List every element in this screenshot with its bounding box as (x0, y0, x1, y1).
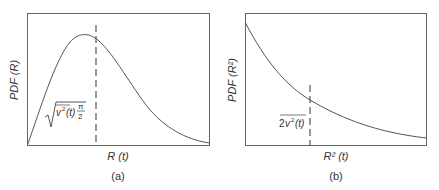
svg-text:π: π (78, 102, 84, 111)
ylabel-a: PDF (R) (8, 60, 20, 100)
ylabel-b: PDF (R²) (226, 58, 238, 102)
panel-b-frame (246, 14, 427, 146)
panel-a: PDF (R) R (t) (a) v 2 (t) π 2 (8, 14, 210, 183)
svg-text:(t): (t) (66, 107, 75, 118)
panel-b: PDF (R²) R² (t) (b) 2 v 2 (t) (226, 14, 427, 183)
svg-text:(t): (t) (295, 118, 304, 129)
caption-b: (b) (329, 170, 342, 182)
annotation-b: 2 v 2 (t) (279, 115, 306, 129)
svg-text:2: 2 (78, 112, 83, 121)
xlabel-b: R² (t) (323, 150, 348, 162)
rayleigh-curve (28, 35, 210, 145)
exponential-curve (246, 23, 427, 138)
annotation-a: v 2 (t) π 2 (45, 102, 86, 127)
caption-a: (a) (111, 170, 124, 182)
figure: PDF (R) R (t) (a) v 2 (t) π 2 PDF (R²) R… (0, 0, 439, 190)
xlabel-a: R (t) (107, 150, 129, 162)
panel-a-frame (28, 14, 210, 146)
